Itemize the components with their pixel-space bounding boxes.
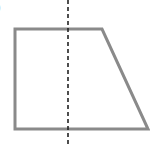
- trapezoid-shape: [15, 29, 148, 129]
- diagram-canvas: [0, 0, 150, 144]
